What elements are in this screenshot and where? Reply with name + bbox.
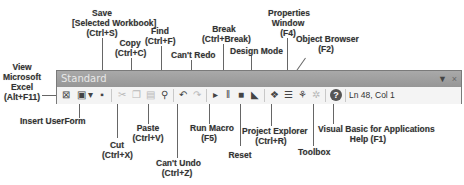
- leader-line: [117, 104, 118, 138]
- callout-toolbox: Toolbox: [298, 147, 328, 157]
- callout-text: Toolbox: [298, 147, 328, 157]
- callout-text: Can't Redo: [171, 50, 211, 60]
- callout-find: Find (Ctrl+F): [145, 26, 175, 46]
- separator: [173, 89, 174, 102]
- leader-line: [333, 104, 334, 124]
- callout-object-browser: Object Browser (F2): [296, 34, 356, 54]
- callout-text: Excel: [2, 82, 42, 92]
- stop-icon[interactable]: ■: [235, 89, 247, 101]
- toolbar-title: Standard: [61, 73, 107, 84]
- callout-text: Find: [145, 26, 175, 36]
- properties-icon[interactable]: ☰: [282, 89, 294, 101]
- excel-icon[interactable]: ⊠: [60, 89, 72, 101]
- callout-cut: Cut (Ctrl+X): [102, 140, 132, 160]
- callout-text: [Selected Workbook]: [72, 18, 132, 28]
- leader-line: [148, 104, 149, 124]
- help-icon[interactable]: ?: [330, 89, 342, 101]
- callout-text: Run Macro: [190, 123, 228, 133]
- scissors-icon[interactable]: ✂: [116, 89, 128, 101]
- callout-project-explorer: Project Explorer (Ctrl+R): [242, 126, 300, 146]
- callout-run-macro: Run Macro (F5): [190, 123, 228, 143]
- callout-text: (Ctrl+S): [72, 28, 132, 38]
- separator: [345, 89, 346, 102]
- callout-text: Object Browser: [296, 34, 356, 44]
- toolbox-icon[interactable]: ✲: [310, 89, 322, 101]
- callout-text: (Ctrl+Break): [202, 34, 246, 44]
- callout-text: Help (F1): [318, 134, 418, 144]
- separator: [264, 89, 265, 102]
- save-icon[interactable]: ▪: [96, 89, 108, 101]
- callout-text: (F2): [296, 44, 356, 54]
- callout-text: Properties: [268, 8, 308, 18]
- callout-text: Reset: [228, 150, 252, 160]
- callout-text: Paste: [132, 123, 164, 133]
- separator: [111, 89, 112, 102]
- callout-cant-undo: Can't Undo (Ctrl+Z): [156, 158, 198, 178]
- toolbar-buttons: ⊠ ▣ ▾ ▪ ✂ ❐ ▤ ⚲ ↶ ↷ ▸ ‖ ■ ◣ ❖ ☰ ⚘ ✲ ? Ln…: [57, 87, 461, 104]
- toolbar-options-icon[interactable]: ▼: [438, 74, 447, 84]
- copy-icon[interactable]: ❐: [130, 89, 142, 101]
- callout-text: Save: [72, 8, 132, 18]
- callout-reset: Reset: [228, 150, 252, 160]
- callout-text: (Ctrl+V): [132, 133, 164, 143]
- callout-break: Break (Ctrl+Break): [202, 24, 246, 44]
- callout-text: (Ctrl+F): [145, 36, 175, 46]
- callout-text: Can't Undo: [156, 158, 198, 168]
- callout-text: Microsoft: [2, 72, 42, 82]
- close-icon[interactable]: ×: [452, 74, 457, 84]
- callout-text: (F5): [190, 133, 228, 143]
- chevron-down-icon[interactable]: ▾: [86, 89, 94, 101]
- leader-line: [209, 104, 210, 124]
- callout-text: View: [2, 62, 42, 72]
- callout-text: (Alt+F11): [2, 92, 42, 102]
- design-mode-icon[interactable]: ◣: [249, 89, 261, 101]
- binoculars-icon[interactable]: ⚲: [158, 89, 170, 101]
- callout-save: Save [Selected Workbook] (Ctrl+S): [72, 8, 132, 38]
- leader-line: [313, 104, 314, 146]
- callout-text: Cut: [102, 140, 132, 150]
- separator: [206, 89, 207, 102]
- callout-text: Project Explorer: [242, 126, 300, 136]
- callout-cant-redo: Can't Redo: [171, 50, 211, 60]
- callout-text: Visual Basic for Applications: [318, 124, 418, 134]
- callout-text: Insert UserForm: [20, 116, 80, 126]
- redo-icon[interactable]: ↷: [191, 89, 203, 101]
- object-browser-icon[interactable]: ⚘: [296, 89, 308, 101]
- callout-design-mode: Design Mode: [230, 46, 280, 56]
- callout-text: (Ctrl+R): [242, 136, 300, 146]
- callout-paste: Paste (Ctrl+V): [132, 123, 164, 143]
- project-explorer-icon[interactable]: ❖: [268, 89, 280, 101]
- callout-text: Break: [202, 24, 246, 34]
- callout-text: (Ctrl+Z): [156, 168, 198, 178]
- standard-toolbar[interactable]: Standard ▼ × ⊠ ▣ ▾ ▪ ✂ ❐ ▤ ⚲ ↶ ↷ ▸ ‖ ■ ◣…: [56, 70, 462, 104]
- undo-icon[interactable]: ↶: [177, 89, 189, 101]
- leader-line: [177, 104, 178, 158]
- pause-icon[interactable]: ‖: [222, 89, 234, 101]
- leader-line: [271, 104, 272, 126]
- callout-copy: Copy (Ctrl+C): [115, 38, 145, 58]
- separator: [325, 89, 326, 102]
- leader-line: [240, 104, 241, 146]
- paste-icon[interactable]: ▤: [144, 89, 156, 101]
- callout-text: (Ctrl+X): [102, 150, 132, 160]
- callout-insert-userform: Insert UserForm: [20, 116, 80, 126]
- toolbar-titlebar[interactable]: Standard ▼ ×: [57, 71, 461, 87]
- cursor-position: Ln 48, Col 1: [349, 90, 395, 100]
- callout-text: Copy: [115, 38, 145, 48]
- callout-vba-help: Visual Basic for Applications Help (F1): [318, 124, 418, 144]
- callout-text: (Ctrl+C): [115, 48, 145, 58]
- callout-text: Window: [268, 18, 308, 28]
- callout-view-excel: View Microsoft Excel (Alt+F11): [2, 62, 42, 102]
- callout-text: Design Mode: [230, 46, 280, 56]
- play-icon[interactable]: ▸: [209, 89, 221, 101]
